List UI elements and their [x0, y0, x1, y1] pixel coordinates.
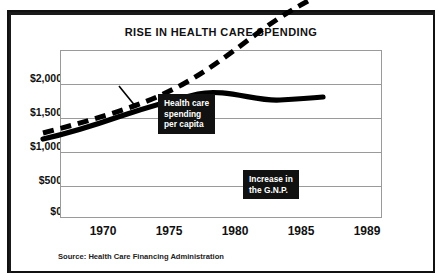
- callout-health-care-spending: Health care spending per capita: [158, 94, 215, 134]
- x-axis-label-1989: 1989: [344, 224, 390, 238]
- x-axis-label-1975: 1975: [146, 224, 192, 238]
- callout-gnp-increase: Increase in the G.N.P.: [243, 170, 299, 199]
- chart-figure: RISE IN HEALTH CARE SPENDING $2,000 $1,5…: [0, 0, 442, 280]
- x-axis-label-1985: 1985: [278, 224, 324, 238]
- callout-health-line3: per capita: [164, 119, 209, 130]
- callout-health-line2: spending: [164, 109, 209, 120]
- x-axis-label-1970: 1970: [80, 224, 126, 238]
- leader-line-health-care: [119, 86, 136, 107]
- source-note: Source: Health Care Financing Administra…: [58, 252, 224, 261]
- callout-gnp-line2: the G.N.P.: [249, 185, 293, 196]
- callout-gnp-line1: Increase in: [249, 174, 293, 185]
- x-axis-label-1980: 1980: [212, 224, 258, 238]
- callout-health-line1: Health care: [164, 98, 209, 109]
